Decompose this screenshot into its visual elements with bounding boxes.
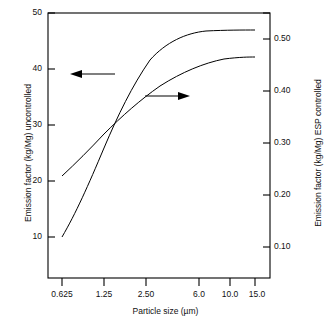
x-axis-tick-label-150: 15.0 [240, 289, 274, 299]
left-axis-tick-label-50: 50 [16, 7, 42, 17]
right-axis-tick-label-010: 0.10 [274, 241, 304, 251]
curve-uncontrolled [62, 30, 255, 237]
right-axis-title: Emission factor (kg/Mg) ESP controlled [313, 63, 323, 243]
plot-border [48, 13, 270, 278]
curve-esp-controlled [62, 57, 255, 176]
right-axis-tick-label-030: 0.30 [274, 137, 304, 147]
left-axis-title: Emission factor (kg/Mg) uncontrolled [23, 63, 33, 243]
right-arrow-head-icon [178, 92, 190, 100]
left-axis-arrow [70, 70, 115, 78]
left-arrow-head-icon [70, 70, 82, 78]
chart-figure: 50 40 30 20 10 0.50 0.40 0.30 0.20 0.10 … [0, 0, 333, 328]
x-axis-tick-label-125: 1.25 [87, 289, 121, 299]
right-axis-tick-label-050: 0.50 [274, 33, 304, 43]
chart-plot-svg [0, 0, 333, 328]
right-axis-tick-label-020: 0.20 [274, 189, 304, 199]
right-axis-ticks [263, 13, 270, 247]
left-axis-ticks [48, 13, 55, 237]
x-axis-tick-label-0625: 0.625 [45, 289, 79, 299]
x-axis-tick-label-60: 6.0 [182, 289, 216, 299]
plot-frame [48, 13, 270, 278]
right-axis-arrow [145, 92, 190, 100]
x-axis-ticks [62, 278, 255, 286]
right-axis-tick-label-040: 0.40 [274, 85, 304, 95]
x-axis-tick-label-250: 2.50 [129, 289, 163, 299]
x-axis-title: Particle size (µm) [58, 306, 273, 316]
